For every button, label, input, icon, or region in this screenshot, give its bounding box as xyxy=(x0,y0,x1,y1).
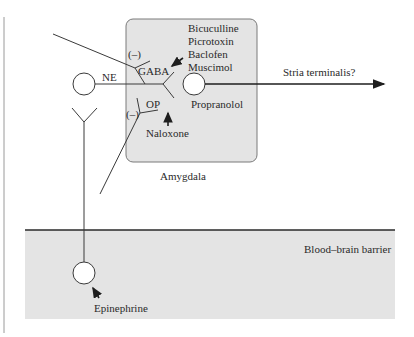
drug-bicuculline: Bicuculline xyxy=(188,22,239,34)
amygdala-label: Amygdala xyxy=(160,170,206,182)
ne-label: NE xyxy=(102,71,117,83)
gaba-label: GABA xyxy=(138,65,169,77)
propranolol-label: Propranolol xyxy=(191,98,243,110)
barrier-label: Blood–brain barrier xyxy=(304,243,391,255)
op-label: OP xyxy=(146,98,160,110)
drug-baclofen: Baclofen xyxy=(188,48,228,60)
afferent-dendrite xyxy=(72,108,97,122)
output-cell-body xyxy=(183,73,205,95)
drug-muscimol: Muscimol xyxy=(188,61,233,73)
stria-terminalis-label: Stria terminalis? xyxy=(283,66,356,78)
amygdala-diagram: Blood–brain barrier Amygdala (–) GABA NE… xyxy=(0,0,414,337)
naloxone-label: Naloxone xyxy=(146,127,189,139)
afferent-cell-body xyxy=(73,262,95,284)
ne-cell-body xyxy=(73,73,95,95)
op-inhibitory-sign: (–) xyxy=(126,108,139,121)
epinephrine-label: Epinephrine xyxy=(94,302,148,314)
drug-picrotoxin: Picrotoxin xyxy=(188,35,234,47)
gaba-inhibitory-sign: (–) xyxy=(128,48,141,61)
